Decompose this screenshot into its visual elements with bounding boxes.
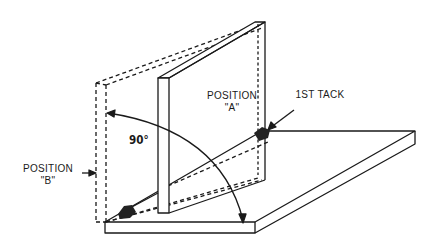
position-a-line1: POSITION <box>202 90 262 102</box>
arc-arrowhead-b <box>107 110 115 117</box>
position-b-line2: "B" <box>18 175 78 187</box>
angle-label: 90° <box>129 132 149 147</box>
position-a-label: POSITION "A" <box>202 90 262 114</box>
first-tack-label: 1ST TACK <box>295 89 345 101</box>
position-a-line2: "A" <box>202 102 262 114</box>
t-joint-diagram <box>0 0 440 249</box>
position-b-label: POSITION "B" <box>18 163 78 187</box>
position-b-line1: POSITION <box>18 163 78 175</box>
